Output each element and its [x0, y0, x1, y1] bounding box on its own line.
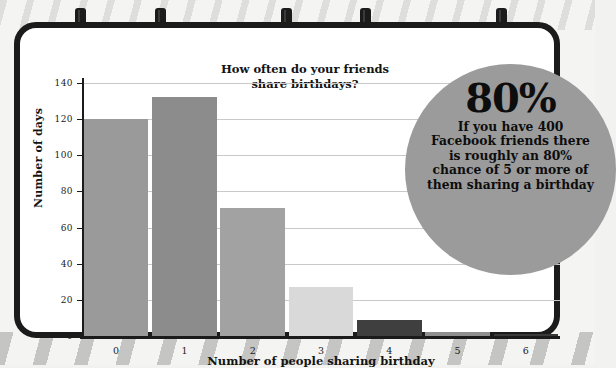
bar-0	[84, 119, 149, 336]
x-axis-line	[80, 336, 560, 339]
bar-1	[152, 97, 217, 336]
callout-headline: 80%	[465, 78, 556, 118]
bar-4	[357, 320, 422, 336]
callout-body: If you have 400 Facebook friends there i…	[426, 120, 596, 192]
y-tick-label-60: 60	[61, 223, 73, 233]
callout-bubble: 80% If you have 400 Facebook friends the…	[405, 64, 616, 275]
x-axis-title: Number of people sharing birthday	[82, 354, 560, 368]
x-tick-label-2: 2	[250, 345, 256, 356]
bar-2	[220, 208, 285, 336]
y-tick-label-140: 140	[55, 78, 73, 88]
x-tick-label-5: 5	[455, 345, 461, 356]
x-tick-label-3: 3	[318, 345, 324, 356]
y-tick-label-40: 40	[61, 259, 73, 269]
y-axis-title: Number of days	[32, 108, 45, 208]
x-tick-label-0: 0	[113, 345, 119, 356]
y-tick-label-120: 120	[55, 114, 73, 124]
y-tick-label-0: 0	[67, 331, 73, 341]
x-tick-label-6: 6	[523, 345, 529, 356]
y-tick-label-80: 80	[61, 186, 73, 196]
y-tick-label-20: 20	[61, 295, 73, 305]
y-axis-line	[82, 78, 84, 336]
chart-title-line-1: How often do your friends	[170, 62, 440, 77]
y-tick-label-100: 100	[55, 150, 73, 160]
bar-3	[289, 287, 354, 336]
x-tick-label-1: 1	[181, 345, 187, 356]
x-tick-label-4: 4	[386, 345, 392, 356]
